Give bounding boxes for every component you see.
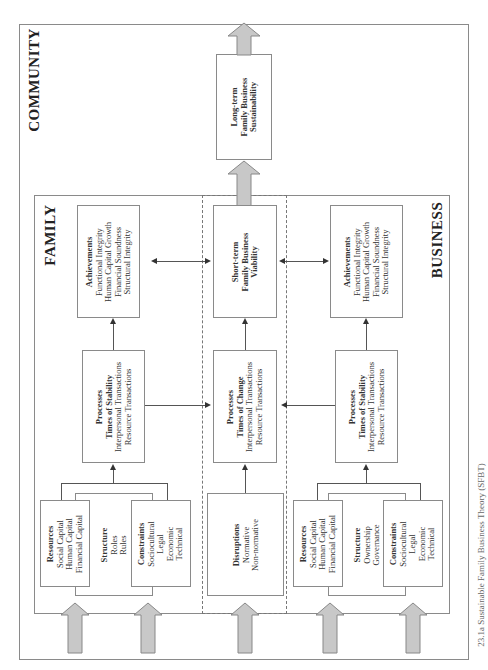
process-item: Resource Transactions bbox=[376, 362, 386, 452]
center-processes-box: Processes Times of Change Interpersonal … bbox=[213, 350, 277, 463]
family-processes-box: Processes Times of Stability Interperson… bbox=[82, 350, 145, 463]
caption-wrap: 23.1a Sustainable Family Business Theory… bbox=[474, 440, 488, 670]
center-process-to-viability bbox=[245, 322, 246, 352]
input-arrow-icon bbox=[133, 602, 163, 654]
arrowhead-up-icon bbox=[363, 318, 369, 324]
community-label: COMMUNITY bbox=[26, 28, 43, 132]
family-constraints-box: Constraints Sociocultural Legal Economic… bbox=[131, 500, 191, 587]
structure-item: Governance bbox=[372, 524, 382, 565]
input-arrow-icon bbox=[315, 602, 345, 654]
disruption-item: Non-normative bbox=[250, 519, 260, 571]
business-label-wrap: BUSINESS bbox=[425, 200, 449, 280]
achievements-title: Achievements bbox=[343, 222, 353, 302]
family-bracket-right bbox=[167, 483, 168, 501]
processes-title: Processes bbox=[347, 362, 357, 452]
structure-item: Rules bbox=[119, 527, 129, 562]
arrowhead-right-icon bbox=[205, 402, 211, 408]
business-bracket-right bbox=[420, 483, 421, 501]
process-item: Interpersonal Transactions bbox=[114, 362, 124, 452]
input-arrow-icon bbox=[60, 602, 90, 654]
arrowhead-up-icon bbox=[110, 318, 116, 324]
disruptions-to-process bbox=[245, 468, 246, 493]
family-achievements-box: Achievements Functional Integrity Human … bbox=[77, 205, 140, 318]
arrowhead-up-icon bbox=[242, 464, 248, 470]
process-item: Resource Transactions bbox=[255, 362, 265, 452]
business-viability-link bbox=[283, 261, 325, 262]
family-resources-box: Resources Social Capital Human Capital F… bbox=[40, 500, 90, 587]
business-process-to-change-link bbox=[286, 405, 335, 406]
family-inputs-to-process bbox=[113, 468, 114, 483]
constraint-item: Technical bbox=[427, 521, 437, 566]
input-arrow-icon bbox=[398, 602, 428, 654]
business-bracket bbox=[317, 483, 421, 484]
family-bracket-left bbox=[61, 483, 62, 501]
arrowhead-left-icon bbox=[281, 402, 287, 408]
business-achievements-box: Achievements Functional Integrity Human … bbox=[330, 205, 403, 318]
arrowhead-right-icon bbox=[323, 258, 329, 264]
arrowhead-up-icon bbox=[242, 318, 248, 324]
processes-title: Processes bbox=[94, 362, 104, 452]
arrowhead-up-icon bbox=[110, 464, 116, 470]
input-arrow-icon bbox=[230, 602, 260, 654]
process-item: Interpersonal Transactions bbox=[367, 362, 377, 452]
constraint-item: Technical bbox=[175, 521, 185, 566]
achievements-title: Achievements bbox=[85, 222, 95, 302]
family-process-to-change-link bbox=[145, 405, 205, 406]
process-item: Resource Transactions bbox=[123, 362, 133, 452]
business-processes-box: Processes Times of Stability Interperson… bbox=[335, 350, 398, 463]
family-bracket bbox=[61, 483, 168, 484]
resource-item: Financial Capital bbox=[328, 514, 338, 572]
output-arrow-icon bbox=[227, 22, 261, 56]
arrowhead-right-icon bbox=[205, 258, 211, 264]
business-resources-box: Resources Social Capital Human Capital F… bbox=[293, 500, 343, 587]
family-viability-link bbox=[155, 261, 207, 262]
business-constraints-box: Constraints Sociocultural Legal Economic… bbox=[383, 500, 443, 587]
business-process-to-achievement bbox=[366, 322, 367, 352]
arrowhead-left-icon bbox=[151, 258, 157, 264]
achievement-item: Human Capital Growth bbox=[104, 222, 114, 302]
business-inputs-to-process bbox=[366, 468, 367, 483]
long-term-line: Sustainability bbox=[249, 78, 259, 137]
achievement-item: Structural Integrity bbox=[123, 222, 133, 302]
business-label: BUSINESS bbox=[429, 202, 446, 279]
family-process-to-achievement bbox=[113, 322, 114, 352]
arrowhead-up-icon bbox=[363, 464, 369, 470]
community-label-wrap: COMMUNITY bbox=[22, 30, 46, 130]
short-term-line: Viability bbox=[250, 232, 260, 291]
long-term-sustainability-box: Long-term Family Business Sustainability bbox=[216, 54, 272, 160]
disruptions-box: Disruptions Normative Non-normative bbox=[207, 493, 284, 596]
arrowhead-left-icon bbox=[279, 258, 285, 264]
short-term-viability-box: Short-term Family Business Viability bbox=[213, 205, 277, 318]
family-label: FAMILY bbox=[42, 204, 59, 265]
achievement-item: Structural Integrity bbox=[381, 222, 391, 302]
achievement-item: Human Capital Growth bbox=[362, 222, 372, 302]
family-label-wrap: FAMILY bbox=[38, 200, 62, 270]
disruptions-title: Disruptions bbox=[231, 519, 241, 571]
resource-item: Financial Capital bbox=[75, 514, 85, 572]
figure-caption: 23.1a Sustainable Family Business Theory… bbox=[476, 463, 486, 646]
business-bracket-left bbox=[317, 483, 318, 501]
